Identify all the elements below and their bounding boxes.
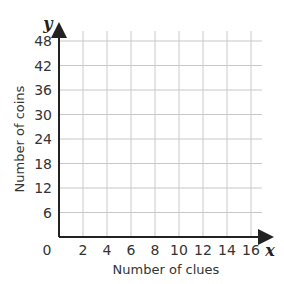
- x-tick-label: 16: [242, 242, 260, 258]
- y-tick-labels: 612182430364248: [34, 33, 52, 221]
- y-tick-label: 36: [34, 82, 52, 98]
- y-axis-title: Number of coins: [12, 85, 27, 192]
- coordinate-grid: 246810121416 612182430364248 0 x y Numbe…: [0, 0, 284, 284]
- y-tick-label: 18: [34, 156, 52, 172]
- x-tick-label: 8: [151, 242, 160, 258]
- y-tick-label: 30: [34, 107, 52, 123]
- x-tick-label: 4: [103, 242, 112, 258]
- y-tick-label: 48: [34, 33, 52, 49]
- x-tick-label: 10: [170, 242, 188, 258]
- x-tick-labels: 246810121416: [79, 242, 260, 258]
- origin-label: 0: [43, 242, 52, 258]
- y-tick-label: 6: [43, 205, 52, 221]
- x-tick-label: 12: [194, 242, 212, 258]
- x-tick-label: 14: [218, 242, 236, 258]
- x-tick-label: 2: [79, 242, 88, 258]
- x-variable-label: x: [264, 241, 275, 260]
- x-tick-label: 6: [127, 242, 136, 258]
- y-variable-label: y: [42, 14, 54, 33]
- y-tick-label: 24: [34, 131, 52, 147]
- y-tick-label: 42: [34, 58, 52, 74]
- x-axis-title: Number of clues: [113, 262, 220, 277]
- grid-lines: [59, 31, 262, 237]
- y-tick-label: 12: [34, 180, 52, 196]
